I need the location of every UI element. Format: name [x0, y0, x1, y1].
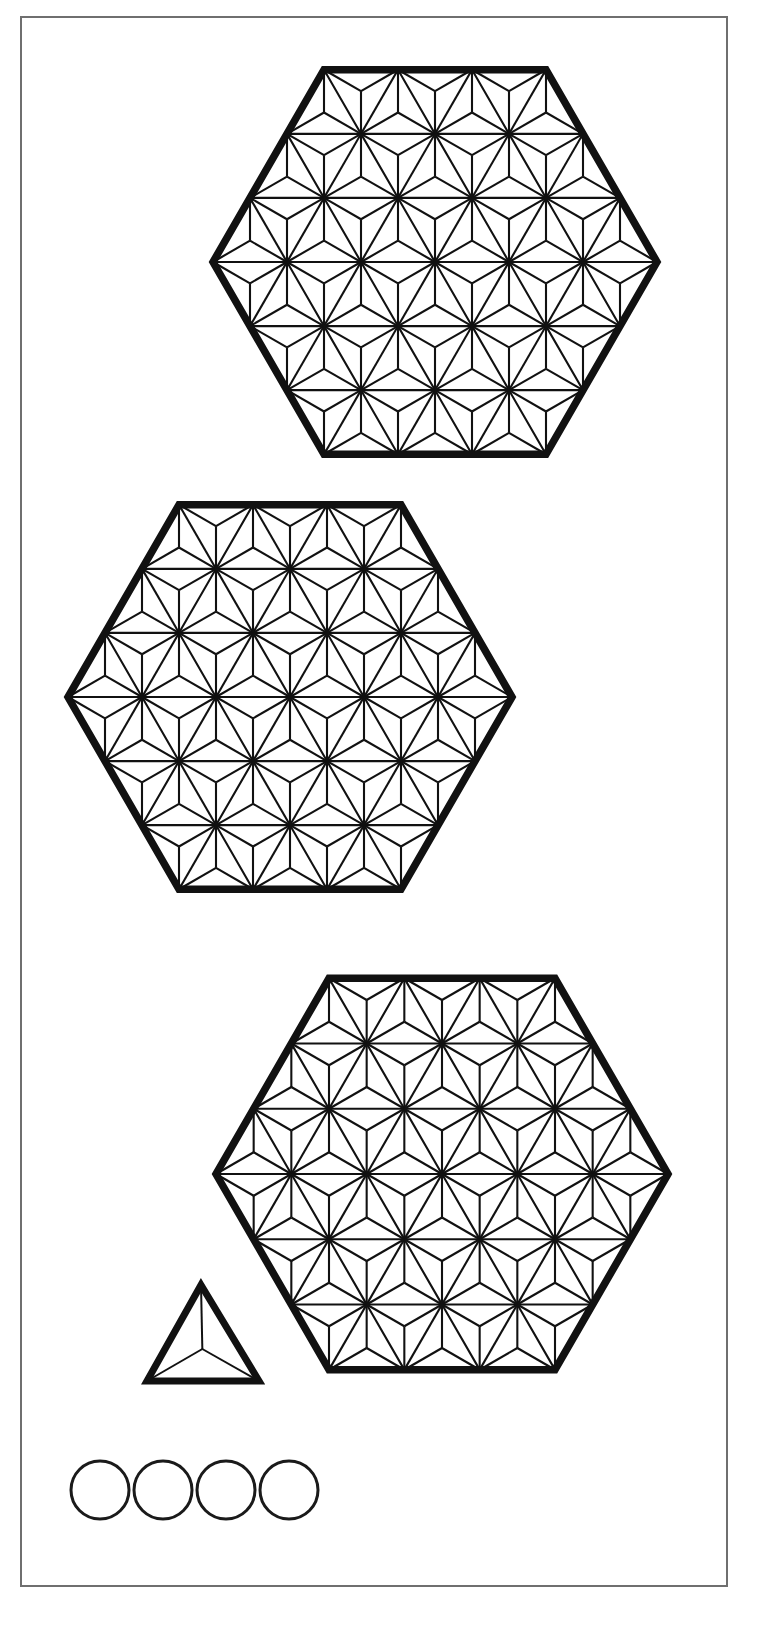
y-star: [404, 1239, 479, 1304]
y-star: [253, 697, 327, 761]
y-star: [404, 978, 479, 1043]
y-star: [287, 326, 361, 390]
y-star: [253, 761, 327, 825]
y-star: [105, 697, 179, 761]
geometry-figure: [0, 0, 757, 1626]
y-star: [105, 569, 179, 633]
y-star: [291, 1239, 366, 1304]
y-star: [555, 1109, 630, 1174]
y-star: [327, 825, 401, 889]
y-star: [291, 1304, 366, 1369]
y-star: [480, 1044, 555, 1109]
y-star: [509, 390, 583, 454]
y-star: [398, 70, 472, 134]
y-star: [364, 761, 438, 825]
y-star: [179, 505, 253, 569]
y-star: [213, 198, 287, 262]
y-star: [398, 198, 472, 262]
y-star: [472, 70, 546, 134]
y-star: [213, 262, 287, 326]
y-star: [555, 1174, 630, 1239]
y-star: [216, 1174, 291, 1239]
y-star: [291, 1174, 366, 1239]
y-star: [179, 633, 253, 697]
y-star: [287, 70, 361, 134]
y-star: [327, 697, 401, 761]
y-star: [329, 978, 404, 1043]
y-star: [367, 1109, 442, 1174]
y-star: [404, 1044, 479, 1109]
y-star: [216, 633, 290, 697]
y-star: [435, 262, 509, 326]
y-star: [509, 134, 583, 198]
y-star: [401, 761, 475, 825]
triangle-star-arm: [201, 1285, 202, 1349]
y-star: [480, 978, 555, 1043]
triangle-with-star: [147, 1285, 259, 1381]
y-star: [216, 569, 290, 633]
y-star: [216, 1109, 291, 1174]
triangle-outline: [147, 1285, 259, 1381]
y-star: [324, 326, 398, 390]
y-star: [290, 761, 364, 825]
y-star: [291, 1044, 366, 1109]
y-star: [142, 505, 216, 569]
y-star: [438, 633, 512, 697]
y-star: [509, 262, 583, 326]
y-star: [517, 1174, 592, 1239]
y-star: [435, 134, 509, 198]
hexagon-middle: [68, 505, 512, 890]
y-star: [254, 1109, 329, 1174]
y-star: [142, 761, 216, 825]
y-star: [435, 198, 509, 262]
y-star: [364, 569, 438, 633]
y-star: [401, 697, 475, 761]
y-star: [442, 1109, 517, 1174]
y-star: [593, 1174, 668, 1239]
y-star: [472, 326, 546, 390]
y-star: [179, 761, 253, 825]
y-star: [472, 390, 546, 454]
y-star: [435, 326, 509, 390]
y-star: [364, 697, 438, 761]
y-star: [324, 390, 398, 454]
y-star: [253, 825, 327, 889]
y-star: [361, 134, 435, 198]
y-star: [254, 1239, 329, 1304]
y-star: [324, 262, 398, 326]
y-star: [324, 134, 398, 198]
y-star: [216, 825, 290, 889]
y-star: [329, 1044, 404, 1109]
y-star: [435, 390, 509, 454]
y-star: [472, 198, 546, 262]
y-star: [216, 697, 290, 761]
template-sheet: [0, 0, 757, 1626]
y-star: [142, 633, 216, 697]
y-star: [250, 262, 324, 326]
y-star: [442, 1174, 517, 1239]
y-star: [68, 697, 142, 761]
y-star: [517, 1109, 592, 1174]
y-star: [435, 70, 509, 134]
circle-1: [71, 1461, 129, 1519]
circle-4: [260, 1461, 318, 1519]
y-star: [290, 569, 364, 633]
y-star: [583, 198, 657, 262]
y-star: [517, 1044, 592, 1109]
y-star: [327, 761, 401, 825]
y-star: [287, 198, 361, 262]
y-star: [290, 825, 364, 889]
y-star: [142, 569, 216, 633]
y-star: [179, 569, 253, 633]
y-star: [361, 198, 435, 262]
y-star: [179, 697, 253, 761]
y-star: [546, 262, 620, 326]
y-star: [364, 505, 438, 569]
y-star: [324, 198, 398, 262]
y-star: [509, 70, 583, 134]
y-star: [253, 633, 327, 697]
y-star: [480, 1304, 555, 1369]
y-star: [398, 134, 472, 198]
y-star: [367, 1304, 442, 1369]
y-star: [401, 569, 475, 633]
